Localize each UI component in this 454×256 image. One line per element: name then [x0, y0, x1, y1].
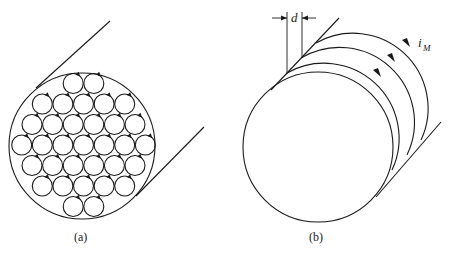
atomic-loop [63, 197, 83, 217]
atomic-loop [84, 115, 104, 135]
atomic-loop [84, 74, 104, 94]
atomic-current-loops [12, 72, 156, 217]
svg-text:M: M [422, 43, 431, 53]
atomic-loop [84, 156, 104, 176]
svg-text:i: i [418, 35, 422, 50]
cylinder-lower-edge [136, 127, 204, 196]
atomic-loop [53, 94, 73, 114]
atomic-loop [74, 176, 94, 196]
atomic-loop [115, 135, 135, 155]
atomic-loop [94, 94, 114, 114]
atomic-loop [32, 94, 52, 114]
cylinder-cross-section [9, 73, 155, 219]
cylinder-upper-edge [36, 21, 110, 88]
atomic-loop [22, 156, 42, 176]
atomic-loop [84, 197, 104, 217]
magnetization-current-label: i M [418, 35, 431, 53]
current-loop-1 [243, 72, 393, 222]
cylinder-lower-edge-b [376, 122, 441, 197]
current-loop-2 [287, 63, 399, 170]
atomic-loop [125, 115, 145, 135]
atomic-loop [22, 115, 42, 135]
atomic-loop [43, 115, 63, 135]
atomic-loop [104, 156, 124, 176]
caption-b: (b) [309, 230, 323, 244]
caption-a: (a) [74, 230, 87, 244]
atomic-loop [115, 94, 135, 114]
atomic-loop [104, 115, 124, 135]
atomic-loop [63, 74, 83, 94]
atomic-loop [125, 156, 145, 176]
dimension-label-d: d [291, 10, 298, 25]
atomic-loop [32, 176, 52, 196]
atomic-loop [135, 135, 155, 155]
atomic-loop [74, 135, 94, 155]
figure: (a) d i M [0, 0, 454, 256]
current-loop-4 [316, 33, 428, 140]
atomic-loop [53, 176, 73, 196]
atomic-loop [63, 156, 83, 176]
atomic-loop [94, 135, 114, 155]
atomic-loop [53, 135, 73, 155]
panel-a: (a) [9, 21, 204, 244]
panel-b: d i M (b) [243, 10, 441, 244]
atomic-loop [94, 176, 114, 196]
atomic-loop [43, 156, 63, 176]
cylinder-upper-edge-b [271, 18, 339, 90]
atomic-loop [12, 135, 32, 155]
atomic-loop [74, 94, 94, 114]
atomic-loop [63, 115, 83, 135]
atomic-loop [115, 176, 135, 196]
atomic-loop [32, 135, 52, 155]
